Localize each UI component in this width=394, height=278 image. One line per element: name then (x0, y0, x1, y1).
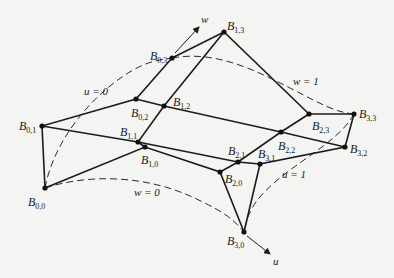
point-label: B2,1 (228, 144, 245, 160)
point-label: B0,0 (28, 195, 45, 211)
control-point-0-0 (42, 185, 47, 190)
point-label: B0,3 (150, 49, 167, 65)
label-w: w (201, 13, 209, 25)
control-point-1-3 (221, 29, 226, 34)
control-point-1-2 (161, 103, 166, 108)
point-label: B1,2 (173, 95, 190, 111)
control-points (39, 29, 356, 234)
point-label: B1,1 (120, 125, 137, 141)
curve-w1 (172, 56, 354, 114)
control-point-0-2 (133, 96, 138, 101)
control-point-3-3 (351, 111, 356, 116)
point-label: B3,3 (359, 107, 376, 123)
control-point-1-0 (142, 144, 147, 149)
point-label: B0,1 (19, 119, 36, 135)
control-point-3-2 (342, 144, 347, 149)
point-labels: B0,0B0,1B0,2B0,3B1,0B1,1B1,2B1,3B2,0B2,1… (19, 19, 376, 250)
control-point-2-2 (278, 129, 283, 134)
point-label: B3,0 (227, 234, 244, 250)
control-net (42, 32, 354, 232)
diagram-svg: B0,0B0,1B0,2B0,3B1,0B1,1B1,2B1,3B2,0B2,1… (0, 0, 394, 278)
point-label: B0,2 (131, 106, 148, 122)
w-axis-arrow (175, 27, 199, 53)
control-point-0-3 (169, 55, 174, 60)
label-u0: u = 0 (84, 85, 108, 97)
control-point-2-0 (217, 169, 222, 174)
point-label: B3,1 (258, 147, 275, 163)
point-label: B3,2 (350, 142, 367, 158)
point-label: B2,3 (312, 119, 329, 135)
label-w0: w = 0 (134, 186, 160, 198)
label-u: u (273, 255, 279, 267)
net-line (172, 32, 354, 114)
u-axis-arrow (247, 236, 270, 254)
control-point-0-1 (39, 123, 44, 128)
control-point-2-3 (306, 111, 311, 116)
label-u1: u = 1 (282, 168, 306, 180)
point-label: B2,2 (278, 139, 295, 155)
point-label: B1,3 (227, 19, 244, 35)
control-point-3-1 (257, 161, 262, 166)
control-point-2-1 (235, 159, 240, 164)
point-label: B1,0 (141, 153, 158, 169)
bezier-surface-diagram: B0,0B0,1B0,2B0,3B1,0B1,1B1,2B1,3B2,0B2,1… (0, 0, 394, 278)
control-point-3-0 (241, 229, 246, 234)
point-label: B2,0 (225, 172, 242, 188)
label-w1: w = 1 (293, 75, 319, 87)
